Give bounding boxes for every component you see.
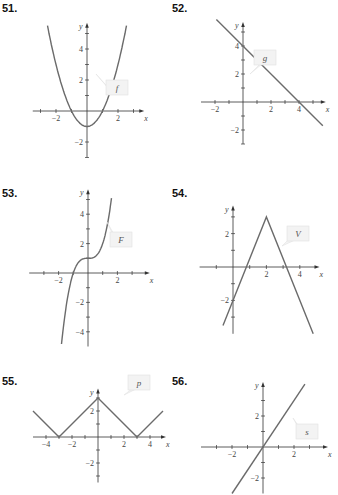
y-tick-label: 2 <box>255 412 259 421</box>
y-tick-label: −2 <box>230 126 239 135</box>
y-tick-label: 2 <box>90 407 94 416</box>
y-axis-arrow <box>231 206 235 211</box>
function-label: p <box>136 378 142 388</box>
x-tick-label: −2 <box>68 440 77 449</box>
label-callout-tail <box>250 64 262 74</box>
y-axis-label: y <box>78 22 83 31</box>
y-tick-label: 4 <box>80 210 84 219</box>
x-axis-label: x <box>149 276 154 285</box>
graph-panel-54: 24−22xyV <box>200 205 324 334</box>
function-label: s <box>305 427 309 437</box>
graph-panel-52: −224−224xyg <box>201 19 330 144</box>
problem-number: 53. <box>2 187 17 199</box>
y-axis-arrow <box>241 22 245 27</box>
x-tick-label: 2 <box>264 270 268 279</box>
y-tick-label: −4 <box>75 328 84 337</box>
x-axis-arrow <box>161 435 166 439</box>
y-tick-label: 2 <box>235 70 239 79</box>
x-tick-label: 2 <box>122 440 126 449</box>
function-curve <box>62 198 112 344</box>
x-axis-arrow <box>139 109 144 113</box>
graph-panel-55: −4−224−22xyp <box>33 375 170 483</box>
problem-number: 52. <box>172 2 187 14</box>
y-axis-arrow <box>85 23 89 28</box>
x-tick-label: 2 <box>116 114 120 123</box>
x-tick-label: −2 <box>54 276 63 285</box>
exercise-graphs: −22−224xyf−224−224xyg−22−4−224xyF24−22xy… <box>0 0 338 495</box>
x-tick-label: −2 <box>52 114 61 123</box>
function-curve <box>232 384 305 493</box>
problem-number: 54. <box>172 187 187 199</box>
x-axis-label: x <box>319 270 324 279</box>
y-axis-label: y <box>79 188 84 197</box>
x-tick-label: 2 <box>115 276 119 285</box>
y-tick-label: 4 <box>79 45 83 54</box>
y-axis-arrow <box>261 382 265 387</box>
y-tick-label: 2 <box>225 230 229 239</box>
y-tick-label: −2 <box>85 459 94 468</box>
function-label: F <box>117 235 124 245</box>
y-tick-label: −2 <box>220 296 229 305</box>
problem-number: 51. <box>2 2 17 14</box>
y-axis-label: y <box>224 205 229 214</box>
x-axis-arrow <box>323 445 328 449</box>
x-axis-arrow <box>315 265 320 269</box>
y-tick-label: 4 <box>235 42 239 51</box>
y-axis-label: y <box>254 381 259 390</box>
x-tick-label: −4 <box>42 440 51 449</box>
problem-number: 56. <box>172 375 187 387</box>
x-axis-label: x <box>325 105 330 114</box>
x-tick-label: 4 <box>297 105 301 114</box>
x-tick-label: 4 <box>148 440 152 449</box>
y-tick-label: 2 <box>80 240 84 249</box>
x-tick-label: −2 <box>228 450 237 459</box>
y-axis-arrow <box>86 189 90 194</box>
x-tick-label: 2 <box>292 450 296 459</box>
problem-number: 55. <box>2 375 17 387</box>
x-tick-label: 2 <box>269 105 273 114</box>
y-axis-label: y <box>89 388 94 397</box>
x-tick-label: 4 <box>298 270 302 279</box>
function-label: g <box>263 53 268 63</box>
y-tick-label: 2 <box>79 76 83 85</box>
y-axis-label: y <box>234 21 239 30</box>
graph-panel-53: −22−4−224xyF <box>29 188 154 346</box>
x-tick-label: −2 <box>211 105 220 114</box>
y-tick-label: −2 <box>250 474 259 483</box>
x-axis-label: x <box>143 114 148 123</box>
y-tick-label: −2 <box>74 138 83 147</box>
x-axis-arrow <box>321 100 326 104</box>
x-axis-arrow <box>145 271 150 275</box>
y-axis-arrow <box>96 389 100 394</box>
x-axis-label: x <box>327 450 332 459</box>
y-tick-label: −2 <box>75 298 84 307</box>
x-axis-label: x <box>165 440 170 449</box>
graph-panel-51: −22−224xyf <box>33 22 149 158</box>
graph-panel-56: −22−22xys <box>201 381 332 494</box>
